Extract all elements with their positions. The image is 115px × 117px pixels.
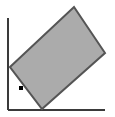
point-marker-square xyxy=(19,86,23,90)
figure-svg xyxy=(0,0,115,117)
diagram-canvas: Inclined rectangular block resting on ax… xyxy=(0,0,115,117)
